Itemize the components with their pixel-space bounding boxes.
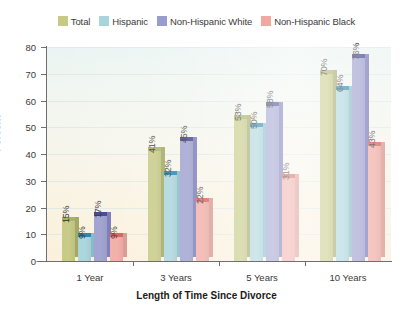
bar-front-face [180, 141, 193, 261]
bar-total-1-year [62, 221, 75, 261]
bar-value-label: 76% [351, 42, 361, 59]
bar-value-label: 50% [249, 112, 259, 129]
bar-hispanic-1-year [78, 237, 91, 261]
legend-item-total: Total [58, 16, 91, 27]
y-tick-label: 40 [14, 149, 36, 160]
bar-non-hispanic-white-10-years [352, 58, 365, 261]
bar-total-10-years [320, 74, 333, 261]
x-tick-label: 10 Years [330, 272, 367, 283]
bar-front-face [94, 216, 107, 261]
y-tick-mark [41, 261, 46, 262]
bar-side-face [295, 174, 299, 257]
bar-front-face [282, 178, 295, 261]
x-tick-mark [305, 261, 306, 266]
bar-total-5-years [234, 119, 247, 261]
bar-front-face [336, 90, 349, 261]
y-axis-line [46, 46, 47, 262]
bar-front-face [164, 175, 177, 261]
legend-swatch-non-hispanic-white [157, 16, 167, 26]
bar-non-hispanic-black-5-years [282, 178, 295, 261]
gridline [47, 47, 391, 48]
bar-non-hispanic-black-1-year [110, 237, 123, 261]
legend-swatch-non-hispanic-black [261, 16, 271, 26]
bar-value-label: 45% [179, 125, 189, 142]
bar-total-3-years [148, 151, 161, 261]
bar-non-hispanic-white-1-year [94, 216, 107, 261]
x-axis-title: Length of Time Since Divorce [0, 290, 413, 301]
bar-value-label: 58% [265, 90, 275, 107]
chart-figure: Total Hispanic Non-Hispanic White Non-Hi… [0, 0, 413, 313]
y-tick-mark [41, 181, 46, 182]
y-tick-mark [41, 74, 46, 75]
x-tick-mark [219, 261, 220, 266]
y-tick-mark [41, 234, 46, 235]
bar-front-face [148, 151, 161, 261]
bar-non-hispanic-white-3-years [180, 141, 193, 261]
x-tick-label: 3 Years [160, 272, 192, 283]
y-tick-label: 70 [14, 68, 36, 79]
legend-label-non-hispanic-black: Non-Hispanic Black [274, 16, 355, 27]
x-tick-mark [133, 261, 134, 266]
y-tick-mark [41, 127, 46, 128]
legend-swatch-total [58, 16, 68, 26]
y-tick-mark [41, 208, 46, 209]
bar-value-label: 9% [77, 226, 87, 239]
y-tick-mark [41, 101, 46, 102]
y-tick-mark [41, 47, 46, 48]
y-tick-label: 10 [14, 229, 36, 240]
bar-hispanic-3-years [164, 175, 177, 261]
bar-value-label: 9% [109, 226, 119, 239]
bar-front-face [250, 127, 263, 261]
bar-value-label: 31% [281, 163, 291, 180]
bar-front-face [62, 221, 75, 261]
x-tick-label: 5 Years [246, 272, 278, 283]
plot-area: 15%9%17%9%41%32%45%22%53%50%58%31%70%64%… [47, 47, 391, 261]
chart-legend: Total Hispanic Non-Hispanic White Non-Hi… [0, 10, 413, 32]
bar-value-label: 32% [163, 160, 173, 177]
x-tick-label: 1 Year [77, 272, 104, 283]
legend-swatch-hispanic [99, 16, 109, 26]
y-axis-title: Percent [0, 115, 2, 152]
bar-value-label: 17% [93, 200, 103, 217]
y-tick-label: 20 [14, 202, 36, 213]
bar-front-face [266, 106, 279, 261]
bar-non-hispanic-white-5-years [266, 106, 279, 261]
bar-non-hispanic-black-10-years [368, 146, 381, 261]
bar-hispanic-5-years [250, 127, 263, 261]
bar-side-face [209, 198, 213, 257]
bar-value-label: 15% [61, 205, 71, 222]
bar-value-label: 22% [195, 187, 205, 204]
bar-side-face [123, 233, 127, 257]
bar-value-label: 64% [335, 74, 345, 91]
bar-value-label: 70% [319, 58, 329, 75]
bar-front-face [368, 146, 381, 261]
legend-item-hispanic: Hispanic [99, 16, 148, 27]
bar-value-label: 43% [367, 131, 377, 148]
bar-value-label: 53% [233, 104, 243, 121]
bar-hispanic-10-years [336, 90, 349, 261]
y-tick-label: 30 [14, 175, 36, 186]
legend-item-non-hispanic-white: Non-Hispanic White [157, 16, 252, 27]
legend-label-total: Total [71, 16, 91, 27]
bar-front-face [110, 237, 123, 261]
bar-value-label: 41% [147, 136, 157, 153]
y-tick-label: 80 [14, 42, 36, 53]
bar-front-face [78, 237, 91, 261]
y-tick-mark [41, 154, 46, 155]
bar-front-face [196, 202, 209, 261]
y-tick-label: 60 [14, 95, 36, 106]
legend-label-non-hispanic-white: Non-Hispanic White [170, 16, 252, 27]
bar-front-face [320, 74, 333, 261]
bar-non-hispanic-black-3-years [196, 202, 209, 261]
bar-front-face [352, 58, 365, 261]
bar-front-face [234, 119, 247, 261]
bar-side-face [381, 142, 385, 257]
y-tick-label: 0 [14, 256, 36, 267]
y-tick-label: 50 [14, 122, 36, 133]
legend-item-non-hispanic-black: Non-Hispanic Black [261, 16, 355, 27]
legend-label-hispanic: Hispanic [112, 16, 148, 27]
